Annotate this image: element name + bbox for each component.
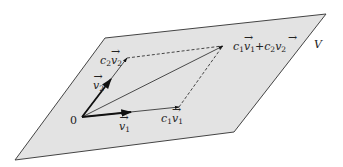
svg-text:→: → <box>244 31 253 44</box>
origin-label: 0 <box>70 114 77 127</box>
plane-v <box>15 14 326 160</box>
svg-text:→: → <box>120 111 129 124</box>
svg-text:→: → <box>288 31 297 44</box>
v1-label: v1 → <box>119 111 130 134</box>
vector-span-diagram: 0 v1 → v2 → c1v1 → c2v2 → c1v1+c2v2 → → … <box>0 0 343 167</box>
svg-text:→: → <box>172 103 181 116</box>
svg-text:→: → <box>94 70 103 83</box>
svg-text:→: → <box>111 45 120 58</box>
v2-label: v2 → <box>93 70 104 93</box>
plane-label-v: V <box>314 38 323 51</box>
